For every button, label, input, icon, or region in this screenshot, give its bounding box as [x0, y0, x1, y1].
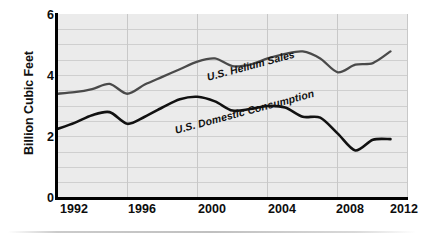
x-tick-label: 1996 [115, 203, 169, 216]
x-axis-ticks: 1992 1996 2000 2004 2008 2012 [0, 0, 431, 239]
x-tick-label: 2004 [255, 203, 309, 216]
x-tick-label: 1992 [47, 203, 101, 216]
page-divider-rule [8, 231, 416, 233]
x-tick-label: 2008 [323, 203, 377, 216]
x-tick-label: 2000 [185, 203, 239, 216]
x-tick-label: 2012 [377, 203, 431, 216]
chart-figure: Billion Cubic Feet 6 4 2 0 [0, 0, 431, 239]
